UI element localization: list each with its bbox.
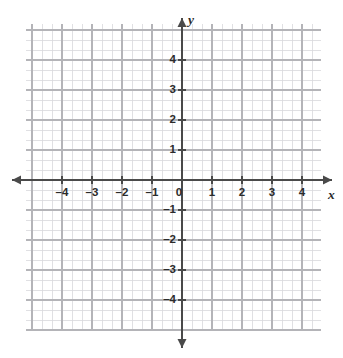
y-tick-label-neg1: –1: [157, 204, 176, 216]
x-tick-label-neg3: –3: [84, 187, 100, 199]
y-axis-label: y: [188, 13, 194, 27]
y-tick-label-2: 2: [157, 114, 176, 126]
y-tick-label-3: 3: [157, 84, 176, 96]
y-tick-label-1: 1: [157, 144, 176, 156]
x-tick-label-0: 0: [171, 187, 187, 199]
x-tick-label-1: 1: [204, 187, 220, 199]
x-tick-label-3: 3: [264, 187, 280, 199]
x-tick-label-neg2: –2: [114, 187, 130, 199]
x-tick-label-neg4: –4: [54, 187, 70, 199]
y-tick-label-4: 4: [157, 54, 176, 66]
coordinate-plane-figure: –4–3–2–101234 –4–3–2–11234 y x: [0, 0, 343, 358]
x-tick-label-4: 4: [294, 187, 310, 199]
x-tick-label-neg1: –1: [144, 187, 160, 199]
y-tick-label-neg4: –4: [157, 294, 176, 306]
x-tick-label-2: 2: [234, 187, 250, 199]
y-tick-label-neg2: –2: [157, 234, 176, 246]
x-axis-label: x: [328, 188, 335, 202]
y-tick-label-neg3: –3: [157, 264, 176, 276]
